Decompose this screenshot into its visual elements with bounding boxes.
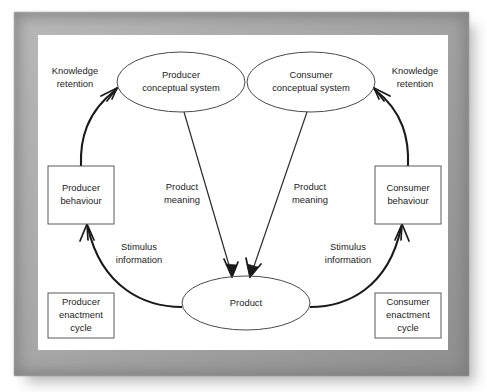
consumer-enactment-cycle-line3: cycle (397, 322, 418, 333)
node-consumer-enactment-cycle[interactable]: Consumer enactment cycle (375, 293, 441, 338)
product-meaning-left-line2: meaning (164, 194, 200, 205)
product-meaning-left-line1: Product (166, 181, 199, 192)
node-producer-enactment-cycle[interactable]: Producer enactment cycle (48, 293, 114, 338)
label-product-meaning-left: Product meaning (164, 181, 200, 205)
producer-conceptual-system-line1: Producer (162, 69, 200, 80)
node-product[interactable]: Product (182, 276, 310, 330)
product-label: Product (230, 297, 263, 308)
stimulus-information-right-line2: information (325, 254, 371, 265)
knowledge-retention-right-line1: Knowledge (392, 65, 438, 76)
label-product-meaning-right: Product meaning (292, 181, 328, 205)
node-consumer-conceptual-system[interactable]: Consumer conceptual system (247, 52, 375, 112)
node-producer-conceptual-system[interactable]: Producer conceptual system (117, 52, 245, 112)
node-producer-behaviour[interactable]: Producer behaviour (48, 166, 114, 224)
producer-enactment-cycle-line3: cycle (70, 322, 91, 333)
label-knowledge-retention-right: Knowledge retention (392, 65, 438, 89)
node-consumer-behaviour[interactable]: Consumer behaviour (375, 166, 441, 224)
knowledge-retention-right-line2: retention (397, 78, 433, 89)
producer-enactment-cycle-line1: Producer (62, 296, 100, 307)
consumer-enactment-cycle-line2: enactment (386, 309, 430, 320)
knowledge-retention-left-line2: retention (57, 78, 93, 89)
edge-knowledge-retention-right (374, 88, 408, 166)
consumer-behaviour-line1: Consumer (386, 182, 429, 193)
stimulus-information-left-line1: Stimulus (121, 241, 157, 252)
label-stimulus-information-right: Stimulus information (325, 241, 371, 265)
figure-root: Producer conceptual system Consumer conc… (0, 0, 487, 392)
diagram-svg: Producer conceptual system Consumer conc… (0, 0, 487, 392)
consumer-enactment-cycle-line1: Consumer (386, 296, 429, 307)
stimulus-information-left-line2: information (116, 254, 162, 265)
consumer-conceptual-system-line2: conceptual system (272, 82, 350, 93)
producer-conceptual-system-line2: conceptual system (142, 82, 220, 93)
knowledge-retention-left-line1: Knowledge (52, 65, 98, 76)
stimulus-information-right-line1: Stimulus (330, 241, 366, 252)
producer-behaviour-line2: behaviour (60, 195, 101, 206)
producer-enactment-cycle-line2: enactment (59, 309, 103, 320)
consumer-behaviour-line2: behaviour (387, 195, 428, 206)
label-knowledge-retention-left: Knowledge retention (52, 65, 98, 89)
product-meaning-right-line2: meaning (292, 194, 328, 205)
edge-knowledge-retention-left (81, 88, 117, 166)
producer-behaviour-line1: Producer (62, 182, 100, 193)
consumer-conceptual-system-line1: Consumer (289, 69, 332, 80)
label-stimulus-information-left: Stimulus information (116, 241, 162, 265)
product-meaning-right-line1: Product (294, 181, 327, 192)
